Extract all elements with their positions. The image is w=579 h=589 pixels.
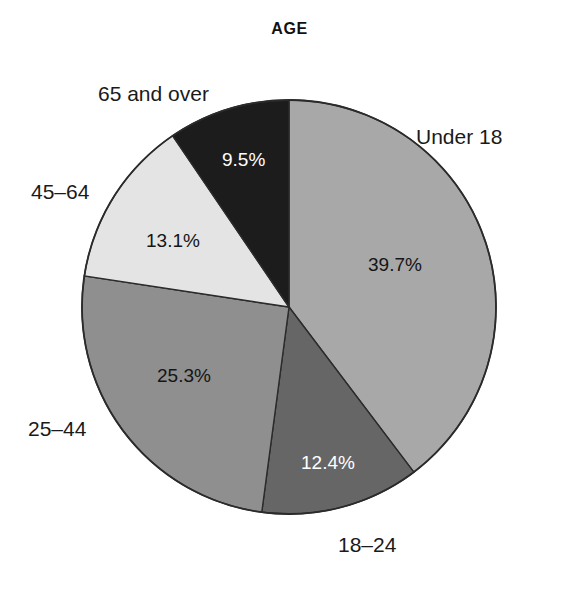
slice-value-label-under-18: 39.7% [368,255,422,274]
slice-category-label-under-18: Under 18 [416,126,502,147]
slice-category-label-45-64: 45–64 [31,181,89,202]
slice-value-label-65-and-over: 9.5% [222,150,265,169]
slice-category-label-18-24: 18–24 [338,534,396,555]
slice-category-label-25-44: 25–44 [28,418,86,439]
pie-chart-figure: AGE Under 18 18–24 25–44 45–64 65 and ov… [0,0,579,589]
pie-slice-group [82,100,496,514]
pie-chart-graphic [0,0,579,589]
slice-value-label-45-64: 13.1% [146,231,200,250]
slice-value-label-25-44: 25.3% [157,366,211,385]
pie-slice [82,276,289,512]
slice-value-label-18-24: 12.4% [301,453,355,472]
slice-category-label-65-and-over: 65 and over [98,83,209,104]
